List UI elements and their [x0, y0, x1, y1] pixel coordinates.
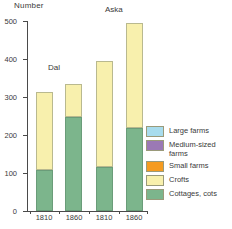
group-label-aska: Aska [105, 5, 123, 14]
x-tick-1 [59, 211, 60, 214]
y-tick-100: 100 [23, 173, 27, 174]
y-axis-title: Number [14, 1, 44, 10]
bar-aska-1860[interactable] [126, 23, 143, 211]
y-axis-line [27, 21, 28, 211]
legend-item-large-farms[interactable]: Large farms [146, 126, 232, 137]
y-tick-label-400: 400 [4, 55, 17, 64]
bar-segment-cottages [36, 170, 53, 211]
bar-segment-crofts [96, 61, 113, 167]
legend-label-small-farms: Small farms [169, 161, 209, 170]
y-tick-400: 400 [23, 59, 27, 60]
bar-dal-1860[interactable] [65, 84, 82, 211]
legend-label-medium-sized-farms: Medium-sized farms [169, 140, 232, 158]
y-tick-300: 300 [23, 97, 27, 98]
legend-item-medium-sized-farms[interactable]: Medium-sized farms [146, 140, 232, 158]
bar-segment-cottages [65, 117, 82, 211]
legend-swatch-medium-sized-farms [146, 140, 164, 151]
legend-item-cottages-cots[interactable]: Cottages, cots [146, 189, 232, 200]
plot-area: 0 100 200 300 400 500 Dal Aska [27, 21, 147, 211]
y-tick-label-200: 200 [4, 131, 17, 140]
legend-swatch-cottages-cots [146, 189, 164, 200]
x-axis-label-aska-1860: 1860 [126, 213, 143, 222]
legend-label-large-farms: Large farms [169, 126, 209, 135]
legend-swatch-crofts [146, 175, 164, 186]
bar-segment-cottages [126, 128, 143, 211]
y-tick-0: 0 [23, 211, 27, 212]
legend-swatch-small-farms [146, 161, 164, 172]
bar-dal-1810[interactable] [36, 92, 53, 211]
legend-label-crofts: Crofts [169, 175, 189, 184]
x-axis-label-dal-1860: 1860 [66, 213, 83, 222]
bar-segment-crofts [36, 92, 53, 170]
x-tick-2 [89, 211, 90, 214]
y-tick-label-0: 0 [13, 207, 17, 216]
legend-swatch-large-farms [146, 126, 164, 137]
legend-item-small-farms[interactable]: Small farms [146, 161, 232, 172]
y-tick-200: 200 [23, 135, 27, 136]
y-tick-label-100: 100 [4, 169, 17, 178]
bar-segment-crofts [65, 84, 82, 117]
legend-item-crofts[interactable]: Crofts [146, 175, 232, 186]
group-label-dal: Dal [48, 63, 60, 72]
legend-label-cottages-cots: Cottages, cots [169, 189, 217, 198]
y-tick-label-300: 300 [4, 93, 17, 102]
x-axis-label-aska-1810: 1810 [96, 213, 113, 222]
chart-container: Number 0 100 200 300 400 500 Dal Aska [0, 0, 232, 229]
chart-legend: Large farms Medium-sized farms Small far… [146, 126, 232, 203]
bar-aska-1810[interactable] [96, 61, 113, 211]
x-axis-line [26, 211, 148, 212]
bar-segment-cottages [96, 167, 113, 211]
y-tick-label-500: 500 [4, 17, 17, 26]
x-tick-0 [30, 211, 31, 214]
x-tick-3 [119, 211, 120, 214]
x-axis-label-dal-1810: 1810 [36, 213, 53, 222]
x-tick-4 [147, 211, 148, 214]
y-tick-500: 500 [23, 21, 27, 22]
bar-segment-crofts [126, 23, 143, 128]
